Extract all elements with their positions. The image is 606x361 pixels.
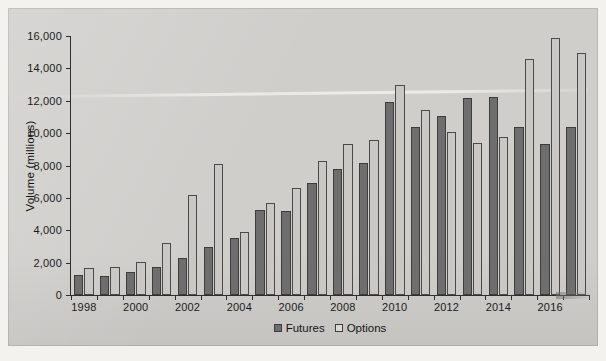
y-tick-label: 4,000 [33,224,62,236]
bar-futures-1999 [100,276,109,295]
y-tick-label: 14,000 [27,62,62,74]
bar-futures-2017 [566,127,575,295]
y-tick-mark [66,36,71,37]
bar-options-2002 [188,195,197,295]
x-tick-label: 2016 [538,301,563,313]
bar-options-2004 [240,232,249,295]
x-tick-mark [460,295,461,300]
y-tick-mark [66,166,71,167]
bar-options-2011 [421,110,430,295]
bar-options-2013 [473,143,482,295]
bar-futures-2013 [463,98,472,295]
bar-futures-1998 [74,275,83,295]
bar-futures-2008 [333,169,342,295]
bar-futures-2009 [359,163,368,295]
bar-options-2006 [292,188,301,295]
x-tick-mark [382,295,383,300]
x-tick-label: 2000 [123,301,148,313]
bar-options-2000 [136,262,145,295]
y-tick-label: 6,000 [33,192,62,204]
bar-options-2015 [525,59,534,295]
x-tick-mark [304,295,305,300]
plot-area: 02,0004,0006,0008,00010,00012,00014,0001… [71,36,589,295]
x-tick-mark [485,295,486,300]
x-tick-label: 2010 [382,301,407,313]
x-tick-mark [97,295,98,300]
x-tick-mark [149,295,150,300]
bar-options-2008 [343,144,352,295]
bar-futures-2003 [204,247,213,295]
x-tick-mark [201,295,202,300]
bar-options-2001 [162,243,171,295]
options-swatch-icon [335,324,343,332]
y-tick-label: 2,000 [33,257,62,269]
futures-swatch-icon [274,324,282,332]
x-tick-mark [226,295,227,300]
legend-item-options[interactable]: Options [335,322,387,334]
x-tick-label: 2014 [486,301,511,313]
x-tick-mark [511,295,512,300]
x-tick-mark [330,295,331,300]
y-tick-label: 10,000 [27,127,62,139]
y-tick-mark [66,68,71,69]
y-tick-mark [66,101,71,102]
x-tick-mark [356,295,357,300]
x-tick-mark [123,295,124,300]
bar-options-2009 [369,140,378,295]
x-tick-label: 2012 [434,301,459,313]
bar-futures-2004 [230,238,239,295]
x-tick-label: 2008 [330,301,355,313]
bar-options-2010 [395,85,404,295]
y-tick-mark [66,198,71,199]
x-tick-mark [408,295,409,300]
y-tick-mark [66,230,71,231]
y-tick-label: 16,000 [27,30,62,42]
x-tick-label: 2004 [227,301,252,313]
legend-label-futures: Futures [286,322,325,334]
bar-futures-2006 [281,211,290,295]
x-tick-mark [434,295,435,300]
figure: Volume (millions) 02,0004,0006,0008,0001… [0,0,606,361]
legend: Futures Options [71,322,589,334]
bar-futures-2010 [385,102,394,295]
y-tick-label: 12,000 [27,95,62,107]
bar-futures-2000 [126,272,135,295]
x-tick-mark [278,295,279,300]
bar-options-2012 [447,132,456,295]
bar-futures-2015 [514,127,523,295]
y-tick-label: 8,000 [33,160,62,172]
bar-futures-2011 [411,127,420,295]
bar-options-2014 [499,137,508,295]
bar-options-2007 [318,161,327,295]
x-tick-mark [537,295,538,300]
bar-futures-2012 [437,116,446,295]
bar-options-2016 [551,38,560,295]
legend-item-futures[interactable]: Futures [274,322,325,334]
x-tick-mark [563,295,564,300]
bar-options-1999 [110,267,119,295]
bar-futures-2005 [255,210,264,295]
y-tick-label: 0 [56,289,62,301]
bar-options-2003 [214,164,223,295]
bar-futures-2014 [489,97,498,295]
x-tick-label: 1998 [71,301,96,313]
y-tick-mark [66,133,71,134]
x-tick-mark [589,295,590,300]
y-tick-mark [66,263,71,264]
bar-futures-2001 [152,267,161,295]
bar-options-2017 [577,53,586,295]
bar-options-2005 [266,203,275,295]
bar-options-1998 [84,268,93,295]
x-tick-label: 2006 [279,301,304,313]
bar-futures-2002 [178,258,187,295]
x-tick-mark [71,295,72,300]
bar-futures-2016 [540,144,549,295]
bar-futures-2007 [307,183,316,296]
x-tick-mark [175,295,176,300]
x-tick-label: 2002 [175,301,200,313]
x-tick-mark [252,295,253,300]
legend-label-options: Options [347,322,387,334]
